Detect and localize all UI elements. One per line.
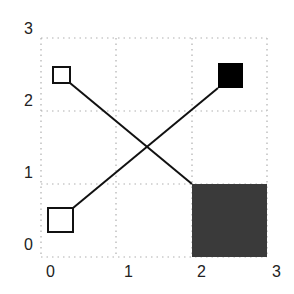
y-tick-3: 3 [24, 20, 33, 37]
open-square-bottom-left [48, 208, 73, 232]
diagram-canvas: 3 2 1 0 0 1 2 3 [0, 0, 294, 294]
open-square-top-left [53, 67, 70, 83]
x-tick-1: 1 [124, 263, 133, 280]
y-tick-1: 1 [24, 164, 33, 181]
x-tick-0: 0 [46, 263, 55, 280]
filled-square-top-right [218, 63, 243, 88]
y-tick-2: 2 [24, 92, 33, 109]
y-tick-0: 0 [24, 236, 33, 253]
x-tick-2: 2 [197, 263, 206, 280]
x-tick-3: 3 [272, 263, 281, 280]
connector-line-descending [70, 83, 192, 184]
dark-square-bottom-right [192, 184, 267, 257]
